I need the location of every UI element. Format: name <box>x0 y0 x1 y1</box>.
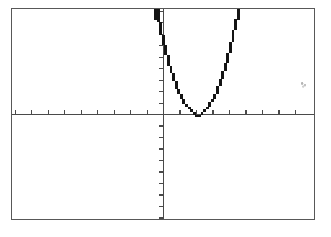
graph-plot <box>12 9 314 219</box>
parabola-curve <box>154 9 240 117</box>
calculator-screen <box>11 8 315 220</box>
